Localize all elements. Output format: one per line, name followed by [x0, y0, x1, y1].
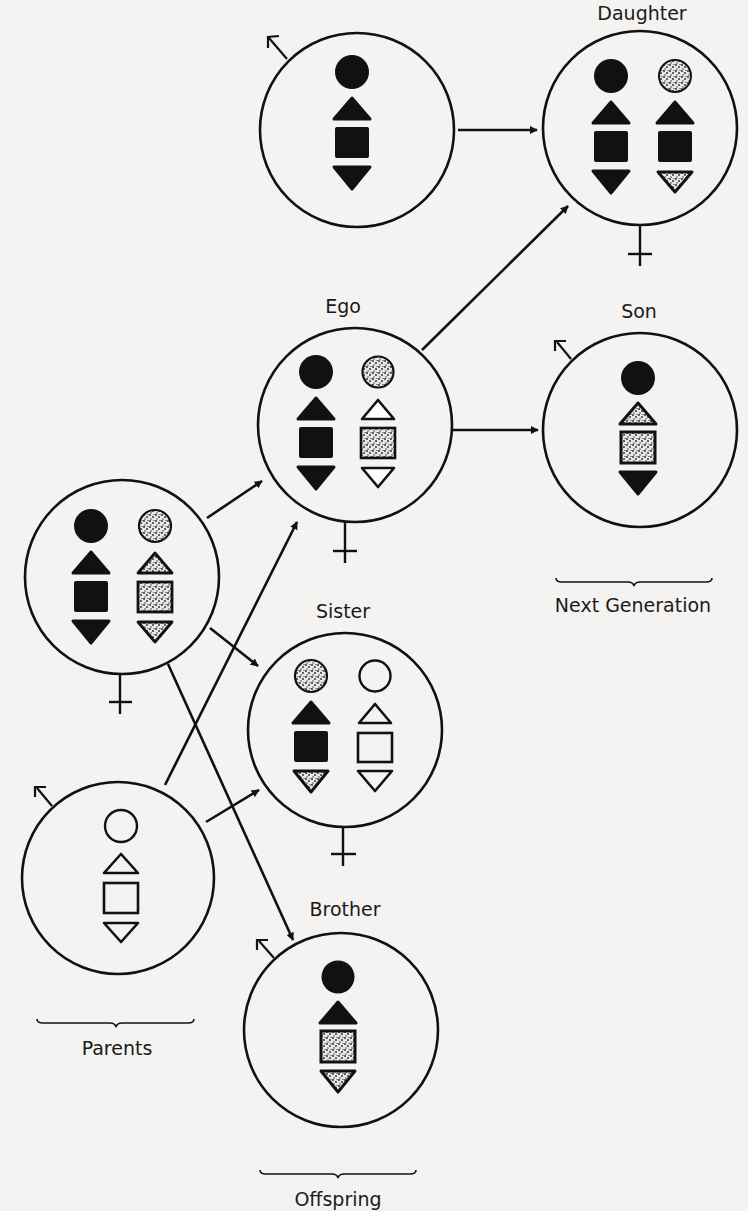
- chromosome-set-solid: [334, 55, 370, 189]
- genetic-inheritance-diagram: Daughter Ego Son: [0, 0, 748, 1211]
- chromosome-set-open: [104, 810, 138, 942]
- individual-father: Parents: [22, 782, 214, 1059]
- female-symbol-icon: [331, 827, 356, 866]
- male-symbol-icon: [268, 36, 287, 59]
- chromosome-set-stippled: [138, 510, 172, 642]
- individual-paternal-grandfather: [260, 33, 454, 227]
- offspring-label: Offspring: [294, 1188, 381, 1210]
- individual-daughter: Daughter: [543, 2, 737, 266]
- chromosome-set-open: [358, 661, 392, 792]
- chromosome-set-solid: [593, 59, 629, 193]
- female-symbol-icon: [109, 675, 132, 714]
- daughter-label: Daughter: [597, 2, 687, 24]
- individual-sister: Sister: [248, 600, 442, 866]
- connector-lines: [165, 130, 568, 940]
- offspring-brace: [260, 1170, 416, 1178]
- individual-ego: Ego: [258, 295, 452, 563]
- individual-mother: [25, 480, 219, 714]
- female-symbol-icon: [628, 225, 652, 266]
- ego-label: Ego: [325, 295, 361, 317]
- parents-brace: [37, 1019, 194, 1027]
- female-symbol-icon: [333, 522, 357, 563]
- chromosome-set-solid: [73, 509, 109, 643]
- parents-label: Parents: [82, 1037, 153, 1059]
- next-generation-label: Next Generation: [555, 594, 711, 616]
- chromosome-set-mixed: [361, 357, 395, 488]
- chromosome-set-mixed: [657, 60, 693, 192]
- son-label: Son: [621, 300, 657, 322]
- chromosome-set-mixed: [620, 361, 656, 494]
- chromosome-set-mixed: [320, 961, 356, 1093]
- male-symbol-icon: [555, 341, 571, 359]
- brother-label: Brother: [309, 898, 380, 920]
- individual-brother: Brother Offspring: [244, 898, 438, 1210]
- chromosome-set-mixed: [293, 660, 329, 792]
- male-symbol-icon: [257, 940, 274, 958]
- individual-son: Son Next Generation: [543, 300, 737, 616]
- sister-label: Sister: [316, 600, 370, 622]
- chromosome-set-solid: [298, 355, 334, 489]
- male-symbol-icon: [35, 787, 52, 806]
- next-generation-brace: [556, 578, 712, 586]
